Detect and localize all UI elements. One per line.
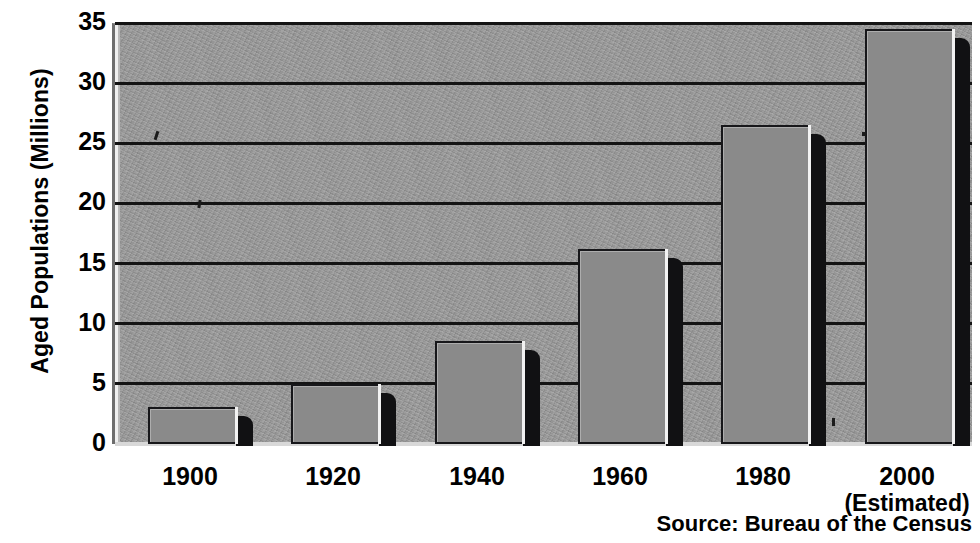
gridline bbox=[115, 82, 972, 85]
y-axis-tick-label: 20 bbox=[30, 189, 106, 214]
bar-3d-side bbox=[523, 350, 540, 446]
y-axis-tick-label: 0 bbox=[30, 430, 106, 455]
bar bbox=[291, 384, 381, 444]
bar-3d-side bbox=[379, 393, 396, 446]
bar bbox=[865, 29, 955, 444]
gridline bbox=[115, 22, 972, 25]
x-axis-tick-label-year: 1900 bbox=[162, 462, 218, 490]
bar-face bbox=[721, 125, 811, 444]
y-axis-tick-label: 5 bbox=[30, 370, 106, 395]
y-axis-tick-labels: 05101520253035 bbox=[30, 0, 106, 470]
bar-edge-highlight bbox=[235, 407, 238, 444]
print-speck bbox=[154, 131, 160, 140]
bar-face bbox=[578, 249, 668, 444]
bar-face bbox=[435, 341, 525, 444]
bar-face bbox=[865, 29, 955, 444]
y-axis-tick-label: 10 bbox=[30, 310, 106, 335]
x-axis-tick-label-year: 2000 bbox=[879, 462, 935, 490]
bar-3d-side bbox=[953, 38, 970, 446]
bar bbox=[148, 407, 238, 444]
x-axis-tick-label-year: 1980 bbox=[735, 462, 791, 490]
bar-3d-side bbox=[236, 416, 253, 446]
bar-edge-highlight bbox=[522, 341, 525, 444]
paper-grain-texture bbox=[115, 25, 972, 444]
x-axis-tick-label-year: 1960 bbox=[592, 462, 648, 490]
y-axis-tick-label: 15 bbox=[30, 250, 106, 275]
x-axis-tick-label-year: 1940 bbox=[449, 462, 505, 490]
source-note: Source: Bureau of the Census bbox=[657, 511, 972, 537]
bar-face bbox=[291, 384, 381, 444]
gridline bbox=[115, 202, 972, 205]
gridline bbox=[115, 322, 972, 325]
bar-edge-highlight bbox=[378, 384, 381, 444]
bar-3d-side bbox=[809, 134, 826, 446]
print-speck bbox=[832, 418, 835, 426]
gridline bbox=[115, 262, 972, 265]
bar-edge-highlight bbox=[665, 249, 668, 444]
x-axis-tick-label: 2000(Estimated) bbox=[807, 463, 980, 516]
plot-area bbox=[112, 23, 972, 444]
gridline bbox=[115, 382, 972, 385]
y-axis-tick-label: 25 bbox=[30, 129, 106, 154]
x-axis-tick-label-year: 1920 bbox=[305, 462, 361, 490]
bar bbox=[721, 125, 811, 444]
y-axis-tick-label: 30 bbox=[30, 69, 106, 94]
bar-face bbox=[148, 407, 238, 444]
bar-3d-side bbox=[666, 258, 683, 446]
y-axis-tick-label: 35 bbox=[30, 9, 106, 34]
bar-edge-highlight bbox=[808, 125, 811, 444]
bar bbox=[435, 341, 525, 444]
bar bbox=[578, 249, 668, 444]
gridline bbox=[115, 142, 972, 145]
plot-left-bevel bbox=[115, 25, 120, 444]
bar-edge-highlight bbox=[952, 29, 955, 444]
bar-chart-figure: Aged Populations (Millions) 051015202530… bbox=[0, 0, 980, 543]
